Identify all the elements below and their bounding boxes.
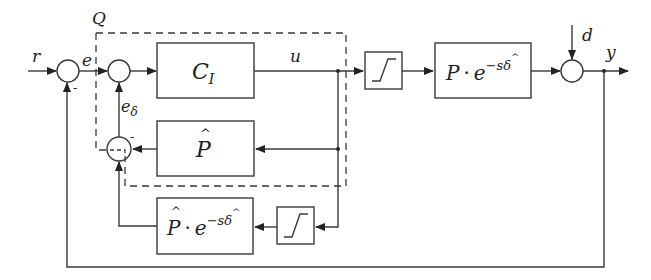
plant-delta-hat: ^ bbox=[511, 51, 519, 62]
sum-error-junction bbox=[57, 60, 79, 82]
r-label: r bbox=[32, 46, 41, 66]
model-delay-hat: ^ bbox=[171, 205, 181, 219]
sum-model-diff-junction bbox=[107, 137, 131, 161]
e-delta-label: eδ bbox=[121, 97, 138, 119]
e-label: e bbox=[82, 50, 92, 70]
y-label: y bbox=[605, 42, 616, 62]
main-feedback-path bbox=[67, 71, 604, 267]
minus-sign-feedback: - bbox=[73, 81, 77, 95]
model-hat: ^ bbox=[200, 126, 211, 141]
sum-disturbance-junction bbox=[561, 60, 583, 82]
sum-controller-input-junction bbox=[108, 60, 130, 82]
u-label: u bbox=[290, 46, 301, 66]
model-delay-delta-hat: ^ bbox=[232, 206, 240, 217]
model-junction-dot bbox=[336, 147, 340, 151]
q-label: Q bbox=[92, 8, 106, 28]
block-diagram: Q r - e CI u P·e−sδ ^ d y P ^ - eδ bbox=[0, 0, 651, 280]
d-label: d bbox=[582, 25, 593, 45]
minus-sign-model: - bbox=[130, 130, 134, 144]
